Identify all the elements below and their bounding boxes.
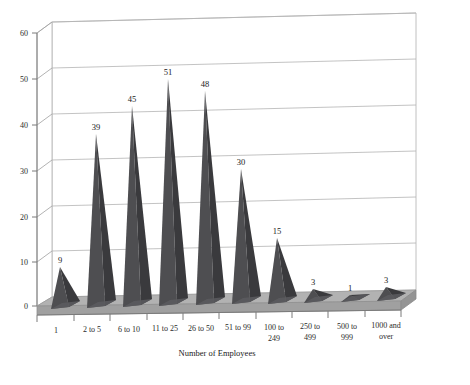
- data-label: 1: [348, 283, 352, 293]
- y-tick-label: 40: [20, 121, 28, 130]
- category-label: 11 to 25: [152, 324, 178, 333]
- pyramid-3d-chart: 60 50 40 30 20 10 0: [0, 0, 470, 385]
- chart-container: 60 50 40 30 20 10 0: [0, 0, 470, 385]
- category-label-line2: 249: [268, 334, 280, 343]
- category-label-line1: 100 to: [264, 323, 284, 332]
- category-label: 51 to 99: [225, 323, 251, 332]
- y-tick-label: 60: [20, 29, 28, 38]
- data-label: 48: [201, 79, 210, 89]
- y-tick-label: 0: [24, 302, 28, 311]
- data-label: 45: [128, 94, 137, 104]
- category-label-line1: 500 to: [337, 322, 357, 331]
- data-label: 15: [273, 226, 282, 236]
- category-label-line1: 250 to: [300, 322, 320, 331]
- category-label: 26 to 50: [188, 324, 214, 333]
- category-label: 2 to 5: [83, 325, 101, 334]
- category-label: 6 to 10: [118, 325, 140, 334]
- category-label-line1: 1000 and: [371, 321, 401, 330]
- y-tick-label: 50: [20, 75, 28, 84]
- data-label: 30: [237, 157, 246, 167]
- category-label-line2: over: [379, 332, 394, 341]
- y-tick-label: 10: [20, 258, 28, 267]
- plot-side-wall: [37, 22, 52, 306]
- y-tick-label: 30: [20, 167, 28, 176]
- category-label-line2: 999: [341, 333, 353, 342]
- y-tick-label: 20: [20, 213, 28, 222]
- data-label: 39: [92, 122, 101, 132]
- data-label: 3: [384, 275, 388, 285]
- category-label-line2: 499: [304, 333, 316, 342]
- data-label: 9: [58, 255, 62, 265]
- category-label: 1: [54, 326, 58, 335]
- x-axis-title: Number of Employees: [179, 348, 256, 358]
- data-label: 51: [164, 67, 173, 77]
- data-label: 3: [311, 277, 315, 287]
